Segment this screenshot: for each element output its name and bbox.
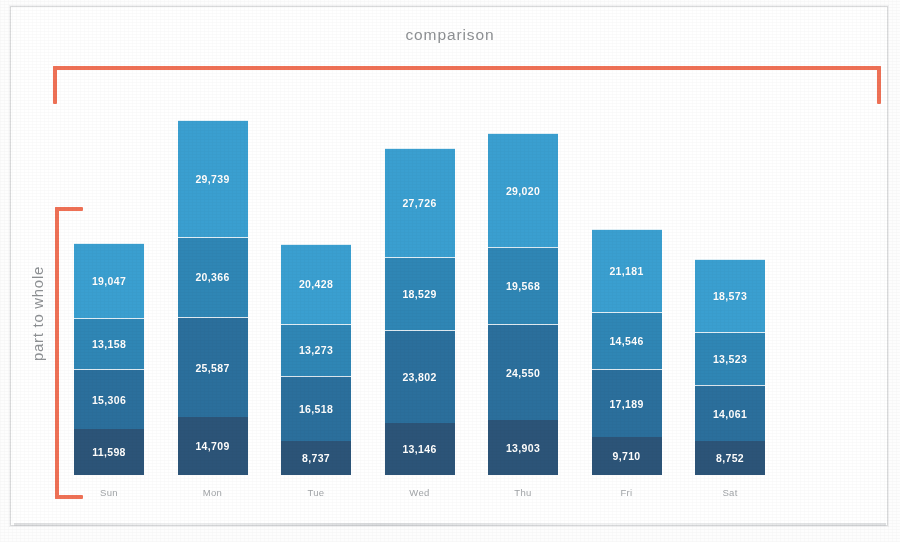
bar-segment[interactable]: 23,802	[385, 330, 455, 423]
bar-segment-value-label: 19,047	[92, 275, 126, 287]
bar-segment[interactable]: 13,273	[281, 324, 351, 376]
plot-area: 11,59815,30613,15819,047Sun14,70925,5872…	[0, 0, 900, 542]
bar-segment-value-label: 13,523	[713, 353, 747, 365]
bar-segment-value-label: 14,709	[195, 440, 229, 452]
bar-stack[interactable]: 14,70925,58720,36629,739	[178, 120, 248, 475]
bar-segment[interactable]: 11,598	[74, 429, 144, 475]
bar-segment-value-label: 11,598	[92, 446, 126, 458]
bar-segment[interactable]: 25,587	[178, 317, 248, 417]
bar-segment-value-label: 8,737	[302, 452, 330, 464]
x-axis-category-label: Fri	[592, 487, 662, 498]
bar-segment[interactable]: 8,752	[695, 441, 765, 475]
bar-segment[interactable]: 9,710	[592, 437, 662, 475]
bar-segment[interactable]: 13,523	[695, 332, 765, 385]
bar-segment[interactable]: 20,366	[178, 237, 248, 317]
bar-stack[interactable]: 13,14623,80218,52927,726	[385, 148, 455, 475]
bar-segment-value-label: 13,903	[506, 442, 540, 454]
bar-segment[interactable]: 8,737	[281, 441, 351, 475]
bar-segment-value-label: 9,710	[612, 450, 640, 462]
bar-segment-value-label: 21,181	[609, 265, 643, 277]
bar-segment-value-label: 20,366	[195, 271, 229, 283]
bar-segment-value-label: 29,739	[195, 173, 229, 185]
bar-stack[interactable]: 8,75214,06113,52318,573	[695, 259, 765, 475]
bar-segment-value-label: 29,020	[506, 185, 540, 197]
bar-segment-value-label: 14,061	[713, 408, 747, 420]
bar-segment-value-label: 23,802	[402, 371, 436, 383]
bar-segment-value-label: 19,568	[506, 280, 540, 292]
bar-segment-value-label: 18,573	[713, 290, 747, 302]
bar-segment[interactable]: 16,518	[281, 376, 351, 441]
x-axis-category-label: Wed	[385, 487, 455, 498]
x-axis-category-label: Sat	[695, 487, 765, 498]
bar-segment[interactable]: 13,903	[488, 420, 558, 475]
bar-segment[interactable]: 14,546	[592, 312, 662, 369]
x-axis-category-label: Mon	[178, 487, 248, 498]
chart-canvas: comparison part to whole 11,59815,30613,…	[0, 0, 900, 542]
bar-segment-value-label: 24,550	[506, 367, 540, 379]
bar-stack[interactable]: 13,90324,55019,56829,020	[488, 133, 558, 475]
bar-segment[interactable]: 13,158	[74, 318, 144, 370]
bar-segment[interactable]: 17,189	[592, 369, 662, 437]
bar-segment[interactable]: 24,550	[488, 324, 558, 420]
bar-stack[interactable]: 9,71017,18914,54621,181	[592, 229, 662, 475]
bar-segment[interactable]: 20,428	[281, 244, 351, 324]
bar-segment[interactable]: 18,529	[385, 257, 455, 330]
bar-segment[interactable]: 18,573	[695, 259, 765, 332]
x-axis-category-label: Thu	[488, 487, 558, 498]
bar-segment[interactable]: 14,061	[695, 385, 765, 440]
bar-segment-value-label: 18,529	[402, 288, 436, 300]
bar-segment[interactable]: 27,726	[385, 148, 455, 257]
bar-segment[interactable]: 21,181	[592, 229, 662, 312]
bar-segment[interactable]: 13,146	[385, 423, 455, 475]
bar-segment-value-label: 15,306	[92, 394, 126, 406]
bar-segment-value-label: 14,546	[609, 335, 643, 347]
bar-segment-value-label: 27,726	[402, 197, 436, 209]
bar-stack[interactable]: 11,59815,30613,15819,047	[74, 243, 144, 475]
bar-segment-value-label: 8,752	[716, 452, 744, 464]
bar-segment[interactable]: 19,047	[74, 243, 144, 318]
bar-segment[interactable]: 29,020	[488, 133, 558, 247]
bar-segment-value-label: 13,158	[92, 338, 126, 350]
bar-segment-value-label: 20,428	[299, 278, 333, 290]
bar-segment-value-label: 16,518	[299, 403, 333, 415]
bar-stack[interactable]: 8,73716,51813,27320,428	[281, 244, 351, 475]
x-axis-category-label: Sun	[74, 487, 144, 498]
x-axis-category-label: Tue	[281, 487, 351, 498]
bar-segment-value-label: 17,189	[609, 398, 643, 410]
bar-segment[interactable]: 19,568	[488, 247, 558, 324]
bar-segment-value-label: 13,146	[402, 443, 436, 455]
bar-segment-value-label: 25,587	[195, 362, 229, 374]
bar-segment[interactable]: 29,739	[178, 120, 248, 237]
bar-segment[interactable]: 14,709	[178, 417, 248, 475]
bar-segment[interactable]: 15,306	[74, 369, 144, 429]
bar-segment-value-label: 13,273	[299, 344, 333, 356]
